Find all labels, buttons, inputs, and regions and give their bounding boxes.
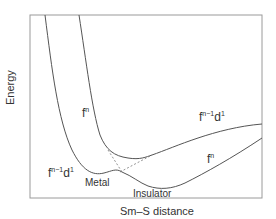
label-sup: n−1 bbox=[202, 110, 214, 117]
x-axis-label: Sm–S distance bbox=[120, 205, 194, 217]
energy-diagram bbox=[0, 0, 276, 219]
label-dsup: 1 bbox=[221, 110, 225, 117]
y-axis-label: Energy bbox=[4, 70, 16, 105]
label-fn1d1-left: fn−1d1 bbox=[48, 166, 74, 179]
label-insulator: Insulator bbox=[133, 189, 171, 199]
label-sup: n−1 bbox=[51, 166, 63, 173]
label-metal: Metal bbox=[85, 178, 109, 188]
label-d: d bbox=[214, 110, 221, 124]
label-d: d bbox=[63, 166, 70, 180]
label-fn1d1-right: fn−1d1 bbox=[199, 110, 225, 123]
label-dsup: 1 bbox=[70, 166, 74, 173]
curve-fn-to-fn1d1 bbox=[79, 15, 262, 159]
curve-metal-fn1d1 bbox=[45, 15, 262, 188]
dashed-line-1 bbox=[108, 150, 122, 172]
label-fn-right: fn bbox=[207, 152, 214, 165]
label-fn-left: fn bbox=[82, 106, 89, 119]
label-sup: n bbox=[85, 106, 89, 113]
label-sup: n bbox=[210, 152, 214, 159]
